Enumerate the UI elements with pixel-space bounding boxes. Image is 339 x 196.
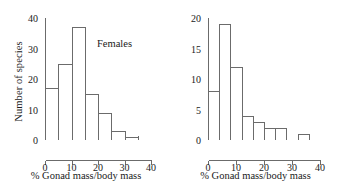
histogram-bar [59,65,73,141]
histogram-bar [86,95,99,141]
y-tick-label: 40 [28,13,38,24]
y-tick-label: 10 [191,74,201,85]
plot-area-males [208,18,320,140]
y-tick-label: 20 [191,13,201,24]
y-tick-label: 0 [196,135,201,146]
y-tick-label: 15 [191,43,201,54]
y-tick-label: 5 [196,104,201,115]
y-tick-label: 30 [28,43,38,54]
panel-females: Number of species 010203040 010203040 Fe… [0,0,172,196]
histogram-bar [231,68,243,141]
y-tick-label: 0 [33,135,38,146]
histogram-bar [254,123,265,141]
x-axis-ticks-males: 010203040 [208,154,320,168]
plot-area-females [45,18,151,140]
y-axis-ticks-males: 05101520 [177,18,201,140]
histogram-bar [126,138,139,141]
histogram-bar [112,132,126,141]
histogram-bar [73,28,86,141]
histogram-bar [243,117,254,141]
panel-males: 05101520 010203040 Males % Gonad mass/bo… [172,0,339,196]
histogram-bar [299,135,310,141]
y-tick-label: 10 [28,104,38,115]
y-axis-ticks-females: 010203040 [14,18,38,140]
histogram-bar [46,89,59,141]
histogram-bar [99,114,112,141]
histogram-bar [209,92,220,141]
histogram-bar [265,129,276,141]
histogram-figure: Number of species 010203040 010203040 Fe… [0,0,339,196]
histogram-svg-females [45,18,151,140]
x-axis-ticks-females: 010203040 [45,154,151,168]
x-axis-label-males: % Gonad mass/body mass [172,170,339,181]
x-axis-label-females: % Gonad mass/body mass [0,170,172,181]
y-tick-label: 20 [28,74,38,85]
histogram-bar [220,25,231,141]
histogram-bar [276,129,287,141]
histogram-svg-males [208,18,320,140]
annotation-females: Females [97,38,132,49]
